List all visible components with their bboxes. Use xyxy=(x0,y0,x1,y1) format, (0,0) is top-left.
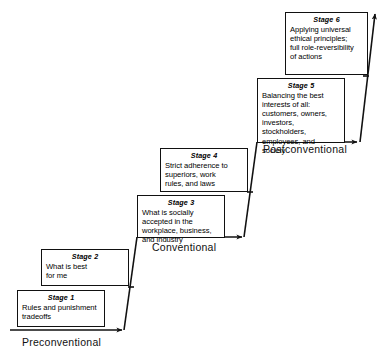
stage-6-title: Stage 6 xyxy=(290,15,363,24)
stage-box-4[interactable]: Stage 4 Strict adherence to superiors, w… xyxy=(160,148,248,192)
moral-development-staircase-diagram: Stage 1 Rules and punishment tradeoffs S… xyxy=(0,0,390,360)
stage-6-body: Applying universal ethical principles; f… xyxy=(290,25,363,62)
stage-5-title: Stage 5 xyxy=(262,81,340,90)
level-label-conventional: Conventional xyxy=(152,241,216,253)
stage-2-title: Stage 2 xyxy=(46,252,124,261)
level-label-postconventional: Postconventional xyxy=(263,143,347,155)
stage-3-body: What is socially accepted in the workpla… xyxy=(142,208,220,245)
stage-4-title: Stage 4 xyxy=(165,151,243,160)
stage-box-5[interactable]: Stage 5 Balancing the best interests of … xyxy=(257,78,345,143)
stage-4-body: Strict adherence to superiors, work rule… xyxy=(165,161,243,189)
stage-3-title: Stage 3 xyxy=(142,198,220,207)
stage-2-body: What is best for me xyxy=(46,262,124,280)
stage-1-title: Stage 1 xyxy=(22,293,100,302)
stage-box-2[interactable]: Stage 2 What is best for me xyxy=(41,249,129,286)
stage-box-1[interactable]: Stage 1 Rules and punishment tradeoffs xyxy=(17,290,105,327)
level-label-preconventional: Preconventional xyxy=(22,336,101,348)
stage-box-3[interactable]: Stage 3 What is socially accepted in the… xyxy=(137,195,225,238)
stage-box-6[interactable]: Stage 6 Applying universal ethical princ… xyxy=(285,12,368,75)
stage-1-body: Rules and punishment tradeoffs xyxy=(22,303,100,321)
